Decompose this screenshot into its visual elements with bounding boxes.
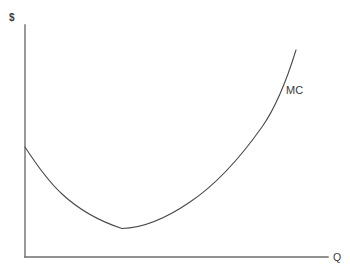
economics-diagram-canvas: marginal cost diagram $ Q MC — [0, 0, 350, 278]
x-axis-label: Q — [333, 252, 341, 263]
y-axis-label: $ — [9, 13, 15, 23]
mc-curve-plot — [0, 0, 350, 278]
axes-group — [25, 25, 328, 257]
series-group — [25, 50, 296, 229]
marginal-cost-curve — [25, 50, 296, 229]
mc-curve-label: MC — [286, 85, 303, 96]
